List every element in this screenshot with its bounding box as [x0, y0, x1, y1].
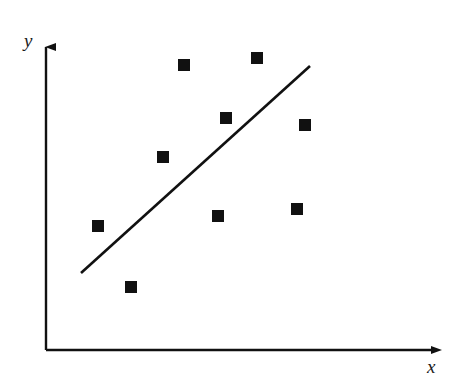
data-point-marker	[157, 151, 169, 163]
data-point-marker	[251, 52, 263, 64]
y-axis-label: y	[24, 31, 32, 50]
scatter-plot-figure: y x	[0, 0, 463, 391]
regression-line	[81, 66, 310, 273]
data-point-marker	[299, 119, 311, 131]
regression-line-group	[81, 66, 310, 273]
plot-canvas	[0, 0, 463, 391]
data-point-marker	[92, 220, 104, 232]
x-axis-label: x	[427, 357, 435, 376]
data-points-group	[92, 52, 311, 293]
data-point-marker	[291, 203, 303, 215]
axes-group	[46, 47, 432, 350]
data-point-marker	[178, 59, 190, 71]
data-point-marker	[220, 112, 232, 124]
data-point-marker	[125, 281, 137, 293]
data-point-marker	[212, 210, 224, 222]
